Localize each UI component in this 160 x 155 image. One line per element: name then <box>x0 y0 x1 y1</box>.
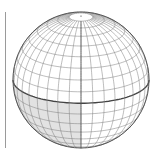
meridian-line <box>83 21 93 148</box>
shade-fill <box>8 80 81 153</box>
shaded-region <box>8 80 81 153</box>
north-pole-dot <box>80 15 81 16</box>
meridian-line <box>87 21 115 147</box>
sphere-figure <box>0 0 160 155</box>
latitude-line <box>69 13 93 21</box>
meridian-line <box>90 20 133 143</box>
meridian-line <box>85 21 104 148</box>
